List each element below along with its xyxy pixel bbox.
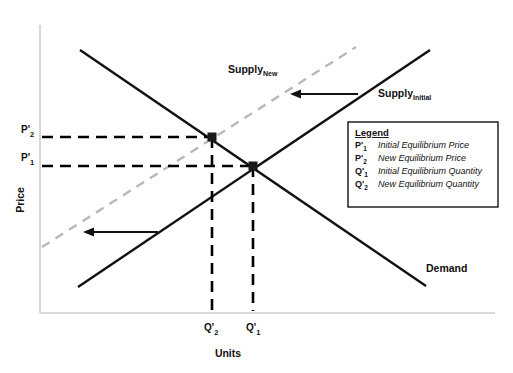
legend-row-3-desc: New Equilibrium Quantity — [378, 179, 480, 189]
price-initial-tick-base: P' — [21, 152, 30, 163]
initial-equilibrium-point — [249, 162, 258, 171]
supply-demand-chart: SupplyNew SupplyInitial Demand P'2 P'1 Q… — [0, 0, 513, 373]
quantity-initial-tick-sub: 1 — [256, 328, 260, 337]
x-axis-title: Units — [215, 347, 241, 359]
legend-title: Legend — [355, 127, 389, 138]
legend-row-2-symbol-base: Q' — [355, 166, 364, 176]
legend-row-1-symbol-sub: 2 — [363, 158, 367, 165]
quantity-initial-tick-base: Q' — [246, 322, 256, 333]
legend-row-0-symbol-sub: 1 — [363, 145, 367, 152]
quantity-new-tick-base: Q' — [204, 322, 214, 333]
legend-row-3-symbol-sub: 2 — [364, 184, 368, 191]
supply-new-label-sub: New — [263, 70, 278, 77]
legend-row-3-symbol-base: Q' — [355, 179, 364, 189]
legend-row-1-symbol-base: P' — [355, 153, 363, 163]
new-equilibrium-point — [208, 133, 217, 142]
price-new-tick-base: P' — [21, 124, 30, 135]
price-new-tick-sub: 2 — [30, 130, 34, 139]
legend-row-2-desc: Initial Equilibrium Quantity — [378, 166, 483, 176]
y-axis-title: Price — [14, 187, 26, 213]
supply-initial-label-base: Supply — [378, 87, 413, 99]
quantity-new-tick-sub: 2 — [214, 328, 218, 337]
legend-row-2-symbol-sub: 1 — [364, 171, 368, 178]
supply-new-label-base: Supply — [228, 63, 263, 75]
legend-row-0-symbol-base: P' — [355, 140, 363, 150]
supply-initial-label-sub: Initial — [413, 94, 431, 101]
legend-row-0-desc: Initial Equilibrium Price — [378, 140, 469, 150]
legend: Legend P'1 Initial Equilibrium Price P'2… — [348, 122, 498, 207]
price-initial-tick-sub: 1 — [30, 158, 34, 167]
demand-label: Demand — [426, 262, 467, 274]
legend-row-1-desc: New Equilibrium Price — [378, 153, 466, 163]
